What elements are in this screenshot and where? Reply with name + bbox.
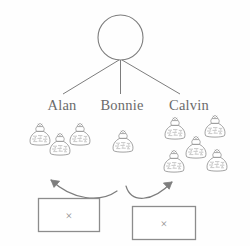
money-bag-icon	[30, 123, 50, 145]
money-bag-icon	[165, 117, 185, 139]
money-bag-icon	[113, 130, 133, 152]
box-x-symbol-right: ×	[161, 217, 168, 231]
heir-label-calvin: Calvin	[169, 97, 209, 113]
money-bag-icon	[205, 115, 225, 137]
connector-line-calvin	[122, 60, 180, 94]
root-circle-node	[98, 15, 143, 60]
money-bag-group-alan	[30, 123, 90, 155]
crossed-out-box-right[interactable]: ×	[133, 207, 196, 240]
money-bag-icon	[70, 123, 90, 145]
arrow-to-calvin	[126, 182, 172, 198]
crossed-out-box-left[interactable]: ×	[39, 199, 100, 232]
inheritance-diagram: Alan Bonnie Calvin	[0, 0, 250, 246]
box-x-symbol-left: ×	[66, 209, 73, 223]
money-bag-group-calvin	[164, 115, 227, 172]
money-bag-icon	[164, 150, 184, 172]
connector-lines	[63, 60, 180, 94]
arrow-to-alan	[51, 180, 117, 198]
money-bag-icon	[186, 136, 206, 158]
money-bag-group-bonnie	[113, 130, 133, 152]
diagram-canvas: Alan Bonnie Calvin	[0, 0, 250, 246]
heir-label-alan: Alan	[48, 97, 78, 113]
money-bag-icon	[50, 133, 70, 155]
heir-label-bonnie: Bonnie	[100, 97, 143, 113]
money-bag-icon	[207, 149, 227, 171]
connector-line-alan	[63, 60, 119, 94]
